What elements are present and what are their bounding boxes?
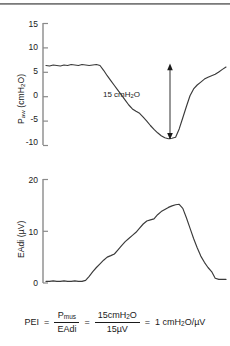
equation-equals-2: = <box>83 317 90 327</box>
top-divider <box>0 3 230 5</box>
equation-frac2-numerator: 15cmH2O <box>95 310 140 321</box>
equation-frac2-denominator: 15µV <box>104 324 131 334</box>
pei-equation: PEI = Pmus EAdi = 15cmH2O 15µV = 1 cmH2O… <box>0 300 230 344</box>
equation-frac2-bar <box>95 322 140 323</box>
equation-lhs: PEI <box>25 317 40 327</box>
chart-panel-paw: Paw (cmH2O) 15 10 5 0 -5 -10 15 cmH2O <box>0 14 230 164</box>
paw-y-ticks <box>43 24 48 146</box>
equation-frac1-bar <box>54 322 79 323</box>
equation-fraction-pmus-eadi: Pmus EAdi <box>54 310 79 334</box>
equation-frac1-numerator: Pmus <box>55 310 79 321</box>
equation-result: 1 cmH2O/µV <box>155 317 205 327</box>
eadi-plot-svg <box>0 168 230 294</box>
eadi-waveform-line <box>46 204 226 281</box>
equation-fraction-values: 15cmH2O 15µV <box>95 310 140 334</box>
chart-panel-eadi: EAdi (µV) 20 10 0 15 µV <box>0 168 230 294</box>
paw-measurement-arrow <box>167 64 173 140</box>
eadi-y-ticks <box>43 180 48 284</box>
paw-waveform-line <box>46 65 226 139</box>
paw-plot-svg <box>0 14 230 164</box>
equation-frac1-denominator: EAdi <box>54 324 79 334</box>
figure-container: Paw (cmH2O) 15 10 5 0 -5 -10 15 cmH2O <box>0 0 230 346</box>
equation-equals-1: = <box>43 317 50 327</box>
equation-equals-3: = <box>144 317 151 327</box>
